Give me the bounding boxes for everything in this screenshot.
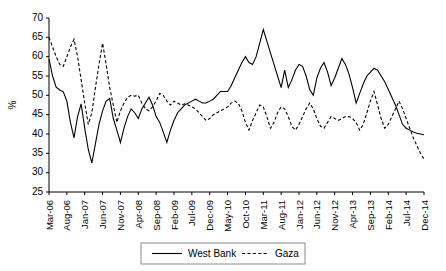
y-tick-labels: 25303540455055606570 [32,12,44,197]
y-tick-label: 70 [32,12,44,23]
x-tick-label: Jun-07 [97,200,108,229]
x-tick-label: Feb-09 [169,200,180,230]
x-tick-label: Oct-10 [240,200,251,229]
chart-container: 25303540455055606570 % Mar-06Aug-06Jan-0… [0,0,446,271]
x-tick-label: Dec-14 [419,200,430,231]
y-tick-label: 50 [32,89,44,100]
y-axis-group: 25303540455055606570 % [7,12,49,197]
x-tick-label: Nov-12 [329,200,340,231]
x-tick-label: Jan-12 [294,200,305,229]
x-tick-label: Jan-07 [79,200,90,229]
x-tick-label: Apr-13 [347,200,358,229]
line-chart: 25303540455055606570 % Mar-06Aug-06Jan-0… [0,0,446,271]
series-group [49,30,424,163]
y-tick-label: 30 [32,166,44,177]
x-tick-label: Sep-08 [151,200,162,231]
x-tick-label: Feb-14 [383,200,394,230]
x-tick-label: Jul-09 [186,200,197,226]
series-line-west-bank [49,30,424,163]
x-tick-label: Jul-14 [401,200,412,226]
x-axis-group: Mar-06Aug-06Jan-07Jun-07Nov-07Apr-08Sep-… [44,192,430,232]
x-tick-label: Aug-06 [61,200,72,231]
series-line-gaza [49,37,424,159]
y-tick-label: 40 [32,128,44,139]
x-tick-labels: Mar-06Aug-06Jan-07Jun-07Nov-07Apr-08Sep-… [44,200,430,232]
x-tick-label: Aug-11 [276,200,287,230]
legend: West Bank Gaza [141,243,305,264]
y-tick-label: 60 [32,50,44,61]
x-tick-label: Jun-12 [311,200,322,229]
x-tick-label: Mar-11 [258,200,269,229]
y-tick-label: 35 [32,147,44,158]
y-tick-label: 65 [32,31,44,42]
y-tick-label: 45 [32,108,44,119]
x-tick-label: Dec-09 [204,200,215,231]
x-tick-label: Mar-06 [44,200,55,230]
x-tick-label: Nov-07 [115,200,126,231]
y-tick-label: 25 [32,186,44,197]
legend-label-west-bank: West Bank [188,248,237,259]
x-tick-label: Sep-13 [365,200,376,231]
x-tick-label: May-10 [222,200,233,232]
legend-label-gaza: Gaza [275,248,299,259]
x-tick-label: Apr-08 [133,200,144,229]
y-axis-title: % [7,100,18,109]
y-tick-label: 55 [32,70,44,81]
